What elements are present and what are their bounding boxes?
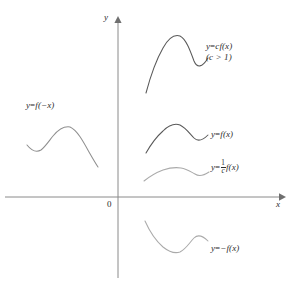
- label-f-of-x-expr: f(x): [220, 129, 233, 139]
- label-one-over-c-f-of-x-expr: f(x): [226, 162, 239, 172]
- label-one-over-c-f-of-x-equals: =: [215, 162, 220, 172]
- label-f-of-x: y=f(x): [211, 129, 233, 140]
- label-neg-f-of-x-expr: −f(x): [220, 243, 239, 253]
- origin-label: 0: [107, 199, 112, 209]
- fraction-numerator: 1: [221, 160, 226, 167]
- curve-f-of-neg-x: [27, 127, 98, 167]
- label-c-f-of-x-condition: (c > 1): [206, 52, 232, 63]
- label-one-over-c-fraction: 1c: [221, 160, 226, 176]
- label-one-over-c-f-of-x: y=1cf(x): [211, 160, 239, 176]
- curve-f-of-x: [146, 124, 208, 153]
- label-c-f-of-x: y=cf(x) (c > 1): [206, 41, 232, 64]
- label-f-of-neg-x-expr: f(−x): [35, 100, 54, 110]
- label-f-of-neg-x: y=f(−x): [26, 100, 54, 111]
- label-c-f-of-x-expr: cf(x): [215, 41, 232, 51]
- y-axis-label: y: [104, 12, 108, 22]
- x-axis-label: x: [276, 199, 280, 209]
- label-neg-f-of-x: y=−f(x): [211, 243, 239, 254]
- curve-one-over-c-f-of-x: [144, 168, 209, 181]
- curve-neg-f-of-x: [145, 221, 208, 253]
- curve-c-f-of-x: [146, 36, 208, 93]
- curves-layer: [0, 0, 289, 288]
- fraction-denominator: c: [221, 167, 226, 175]
- function-transformations-figure: y x 0 y=cf(x) (c > 1) y=f(−x) y=f(x) y=1…: [0, 0, 289, 288]
